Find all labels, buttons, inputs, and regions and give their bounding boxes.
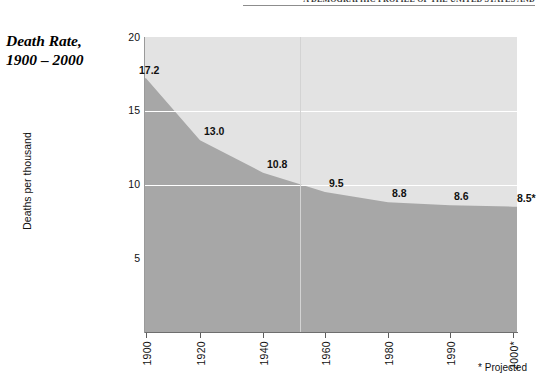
x-tick-label-1940: 1940 <box>258 341 270 366</box>
data-label-1990: 8.6 <box>454 190 469 202</box>
projected-footnote: * Projected <box>478 362 527 373</box>
y-axis-title: Deaths per thousand <box>21 121 33 241</box>
data-label-1960: 9.5 <box>329 177 344 189</box>
x-tick-1980 <box>388 333 389 338</box>
x-tick-label-1900: 1900 <box>141 341 153 366</box>
x-tick-1990 <box>450 333 451 338</box>
x-tick-1940 <box>263 333 264 338</box>
data-label-2000: 8.5* <box>517 192 536 204</box>
data-label-1900: 17.2 <box>139 64 159 76</box>
data-label-1980: 8.8 <box>392 187 407 199</box>
x-tick-label-1980: 1980 <box>383 341 395 366</box>
y-axis-line <box>144 37 145 333</box>
gridline-y-15 <box>145 111 517 112</box>
x-tick-1900 <box>146 333 147 338</box>
x-tick-label-1920: 1920 <box>195 341 207 366</box>
x-tick-label-1990: 1990 <box>445 341 457 366</box>
y-axis-tick-labels: 5101520 <box>112 0 140 379</box>
x-tick-1960 <box>325 333 326 338</box>
data-label-1940: 10.8 <box>267 158 287 170</box>
y-tick-label-20: 20 <box>128 32 140 43</box>
x-tick-1920 <box>200 333 201 338</box>
y-tick-label-10: 10 <box>128 179 140 190</box>
y-tick-label-15: 15 <box>128 105 140 116</box>
y-tick-label-5: 5 <box>134 253 140 264</box>
x-tick-2000 <box>513 333 514 338</box>
data-label-1920: 13.0 <box>204 125 224 137</box>
x-tick-label-1960: 1960 <box>320 341 332 366</box>
gridline-x-mid <box>300 37 301 332</box>
